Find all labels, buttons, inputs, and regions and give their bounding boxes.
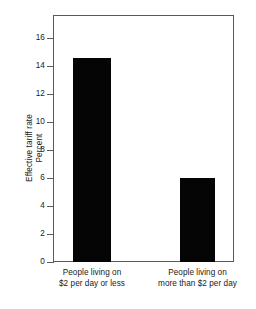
x-axis-category-label: People living on$2 per day or less (32, 268, 152, 289)
y-axis-tick (47, 66, 54, 67)
y-axis-tick (47, 150, 54, 151)
y-axis-tick-label: 16 (26, 34, 45, 42)
y-axis-tick-label: 6 (26, 174, 45, 182)
bar-chart: Effective tariff rate Percent 0246810121… (0, 0, 255, 309)
y-axis-tick-label: 14 (26, 62, 45, 70)
y-axis-tick-label: 0 (26, 258, 45, 266)
y-axis-tick (47, 122, 54, 123)
x-axis-category-label-line1: People living on (32, 268, 152, 279)
bar (73, 58, 111, 262)
x-axis-category-label-line2: $2 per day or less (32, 279, 152, 290)
x-axis-category-label-line2: more than $2 per day (138, 279, 256, 290)
y-axis-tick-label: 2 (26, 230, 45, 238)
x-axis-category-label: People living onmore than $2 per day (138, 268, 256, 289)
y-axis-tick (47, 178, 54, 179)
y-axis-tick (47, 262, 54, 263)
y-axis-tick-label: 4 (26, 202, 45, 210)
y-axis-tick (47, 234, 54, 235)
y-axis-tick (47, 38, 54, 39)
x-axis-category-label-line1: People living on (138, 268, 256, 279)
y-axis-tick-label: 12 (26, 90, 45, 98)
y-axis-tick-label: 10 (26, 118, 45, 126)
y-axis-tick (47, 94, 54, 95)
bar (180, 178, 215, 262)
y-axis-tick-label: 8 (26, 146, 45, 154)
y-axis-tick (47, 206, 54, 207)
